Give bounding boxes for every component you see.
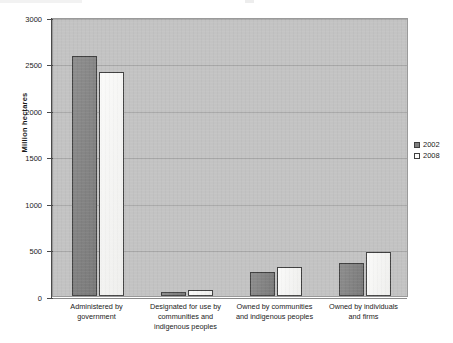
x-axis-category-label-line: indigenous peoples [137, 322, 234, 332]
legend-item-label: 2002 [423, 139, 440, 150]
bar-2008-1 [99, 72, 124, 296]
legend-item-2008[interactable]: 2008 [414, 150, 440, 161]
y-axis-tick: 500 [47, 251, 53, 252]
bar-2002-1 [72, 56, 97, 296]
bar-group [72, 19, 124, 296]
bar-group [250, 19, 302, 296]
x-axis-category-label-line: communities and [137, 312, 234, 322]
y-axis-tick: 3000 [47, 19, 53, 20]
y-axis-tick: 1000 [47, 205, 53, 206]
y-axis-tick-label: 2500 [25, 61, 42, 70]
chart-legend: 20022008 [414, 139, 440, 161]
bar-group [339, 19, 391, 296]
y-axis-title: Million hectares [20, 63, 29, 183]
y-axis-tick: 0 [47, 298, 53, 299]
y-axis-tick: 2000 [47, 112, 53, 113]
y-axis-tick-label: 2000 [25, 107, 42, 116]
gridline [53, 298, 407, 299]
x-axis-category-label-line: Owned by individuals [315, 302, 412, 312]
y-axis-tick-label: 1500 [25, 154, 42, 163]
bar-chart-figure: Million hectares 05001000150020002500300… [0, 0, 453, 343]
legend-item-label: 2008 [423, 150, 440, 161]
x-axis-category-label-line: Designated for use by [137, 302, 234, 312]
bar-2002-3 [250, 272, 275, 296]
x-axis-category-label-line: government [48, 312, 145, 322]
scan-artifact [0, 0, 453, 3]
legend-swatch-empty-icon [414, 153, 420, 159]
bar-2008-2 [188, 290, 213, 297]
y-axis-tick-label: 3000 [25, 14, 42, 23]
x-axis-category-label-line: Owned by communities [226, 302, 323, 312]
x-axis-category-label: Designated for use bycommunities andindi… [137, 302, 234, 332]
bar-2002-4 [339, 263, 364, 296]
x-axis-category-label-line: and indigenous peoples [226, 312, 323, 322]
bar-2008-3 [277, 267, 302, 296]
y-axis-tick: 2500 [47, 65, 53, 66]
x-axis-category-label-line: and firms [315, 312, 412, 322]
y-axis-tick: 1500 [47, 158, 53, 159]
y-axis-tick-label: 500 [29, 247, 42, 256]
x-axis-category-label: Owned by communitiesand indigenous peopl… [226, 302, 323, 322]
y-axis-tick-label: 0 [38, 293, 42, 302]
bar-2008-4 [366, 252, 391, 296]
x-axis-category-label: Owned by individualsand firms [315, 302, 412, 322]
legend-swatch-filled-icon [414, 142, 420, 148]
plot-area: 050010001500200025003000 [52, 18, 408, 297]
bar-2002-2 [161, 292, 186, 296]
x-axis-category-label: Administered bygovernment [48, 302, 145, 322]
x-axis-category-label-line: Administered by [48, 302, 145, 312]
bar-group [161, 19, 213, 296]
y-axis-tick-label: 1000 [25, 200, 42, 209]
legend-item-2002[interactable]: 2002 [414, 139, 440, 150]
